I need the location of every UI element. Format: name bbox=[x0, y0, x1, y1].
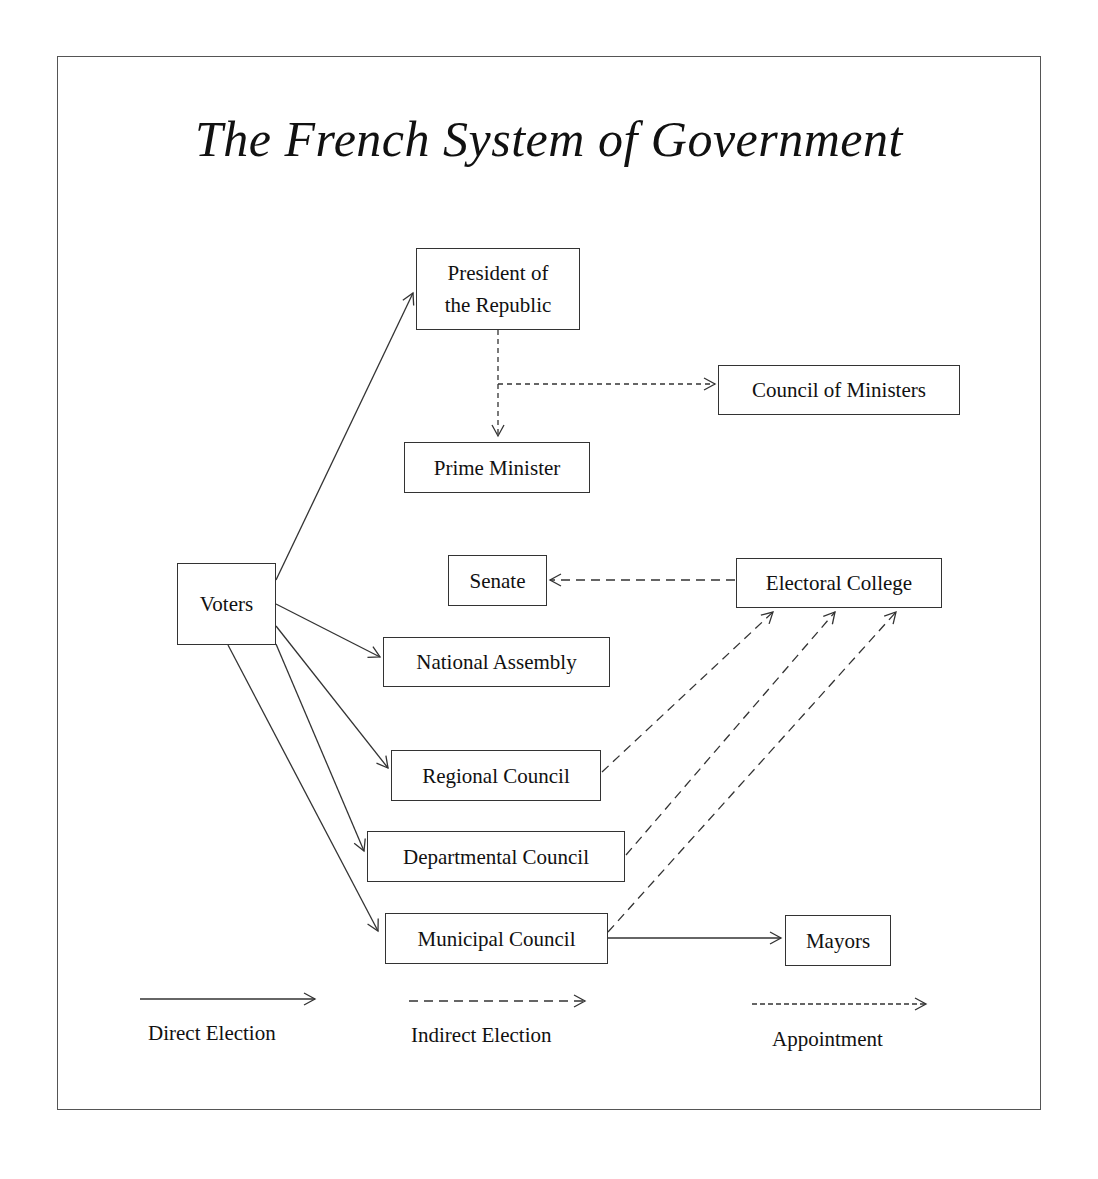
node-prime-minister-label: Prime Minister bbox=[434, 452, 561, 484]
edge-voters-municipal-council bbox=[228, 645, 378, 931]
legend-appointment-label: Appointment bbox=[772, 1027, 883, 1052]
node-senate-label: Senate bbox=[470, 565, 526, 597]
legend-direct-label: Direct Election bbox=[148, 1021, 276, 1046]
edge-departmental-electoral-college bbox=[626, 612, 835, 855]
node-national-assembly: National Assembly bbox=[383, 637, 610, 687]
node-president-line1: President of bbox=[448, 257, 549, 289]
node-municipal-council: Municipal Council bbox=[385, 913, 608, 964]
node-president-line2: the Republic bbox=[445, 289, 552, 321]
node-senate: Senate bbox=[448, 555, 547, 606]
edge-voters-president bbox=[276, 293, 413, 580]
node-voters-label: Voters bbox=[200, 588, 253, 620]
node-electoral-college-label: Electoral College bbox=[766, 567, 912, 599]
node-national-assembly-label: National Assembly bbox=[416, 646, 576, 678]
node-departmental-council: Departmental Council bbox=[367, 831, 625, 882]
node-regional-council-label: Regional Council bbox=[422, 760, 570, 792]
legend-indirect-label: Indirect Election bbox=[411, 1023, 552, 1048]
node-voters: Voters bbox=[177, 563, 276, 645]
edge-municipal-electoral-college bbox=[608, 612, 896, 932]
edge-regional-electoral-college bbox=[602, 612, 773, 772]
node-electoral-college: Electoral College bbox=[736, 558, 942, 608]
node-president: President of the Republic bbox=[416, 248, 580, 330]
node-council-of-ministers: Council of Ministers bbox=[718, 365, 960, 415]
node-mayors: Mayors bbox=[785, 915, 891, 966]
node-departmental-council-label: Departmental Council bbox=[403, 841, 589, 873]
node-council-of-ministers-label: Council of Ministers bbox=[752, 374, 926, 406]
edge-voters-national-assembly bbox=[276, 604, 380, 657]
node-regional-council: Regional Council bbox=[391, 750, 601, 801]
node-municipal-council-label: Municipal Council bbox=[417, 923, 575, 955]
node-prime-minister: Prime Minister bbox=[404, 442, 590, 493]
edge-voters-regional-council bbox=[276, 626, 388, 768]
node-mayors-label: Mayors bbox=[806, 925, 870, 957]
